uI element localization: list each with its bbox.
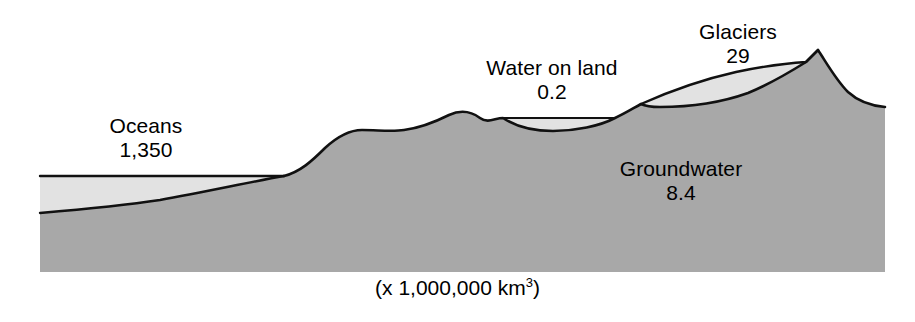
label-water-on-land: Water on land 0.2 xyxy=(452,56,652,105)
units-caption-prefix: (x 1,000,000 km xyxy=(375,276,526,299)
label-water-on-land-value: 0.2 xyxy=(452,80,652,104)
label-oceans-value: 1,350 xyxy=(56,138,236,162)
label-glaciers-value: 29 xyxy=(648,44,828,68)
label-glaciers: Glaciers 29 xyxy=(648,20,828,69)
label-groundwater-value: 8.4 xyxy=(566,181,796,205)
label-water-on-land-name: Water on land xyxy=(452,56,652,80)
units-caption-suffix: ) xyxy=(533,276,540,299)
water-distribution-figure: Oceans 1,350 Water on land 0.2 Glaciers … xyxy=(0,0,915,322)
label-glaciers-name: Glaciers xyxy=(648,20,828,44)
label-oceans-name: Oceans xyxy=(56,114,236,138)
label-groundwater: Groundwater 8.4 xyxy=(566,157,796,206)
label-groundwater-name: Groundwater xyxy=(566,157,796,181)
units-caption: (x 1,000,000 km3) xyxy=(0,276,915,300)
label-oceans: Oceans 1,350 xyxy=(56,114,236,163)
units-caption-exponent: 3 xyxy=(526,275,533,290)
